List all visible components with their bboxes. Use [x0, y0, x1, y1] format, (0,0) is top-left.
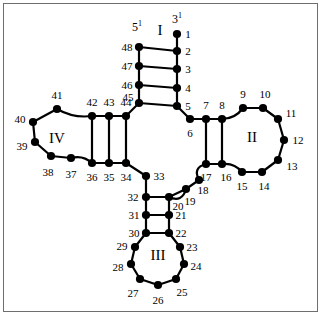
nucleotide-node-9 [239, 104, 247, 112]
base-pair-edge-46-4 [139, 85, 177, 88]
nucleotide-node-10 [259, 104, 267, 112]
nucleotide-label-36: 36 [87, 172, 98, 183]
nucleotide-label-26: 26 [153, 295, 164, 306]
nucleotide-label-10: 10 [260, 89, 271, 100]
nucleotide-node-6 [186, 115, 194, 123]
nucleotide-node-11 [274, 115, 282, 123]
nucleotide-label-39: 39 [17, 141, 28, 152]
nucleotide-node-21 [165, 211, 173, 219]
nucleotide-node-29 [131, 243, 139, 251]
nucleotide-node-39 [31, 138, 39, 146]
nucleotide-label-34: 34 [121, 172, 132, 183]
curved-edges [57, 108, 243, 199]
nucleotide-label-15: 15 [237, 181, 248, 192]
nucleotide-node-31 [142, 211, 150, 219]
nucleotide-label-25: 25 [177, 287, 188, 298]
nucleotide-node-42 [88, 112, 96, 120]
nucleotide-label-11: 11 [286, 108, 297, 119]
nucleotide-node-35 [105, 159, 113, 167]
nucleotide-node-14 [258, 168, 266, 176]
terminal-label-five-prime: 51 [132, 20, 142, 33]
nucleotide-label-1: 1 [185, 29, 191, 40]
arm-label-III: III [151, 248, 166, 263]
nucleotide-node-23 [176, 243, 184, 251]
nucleotide-label-16: 16 [221, 172, 232, 183]
nucleotide-node-46 [135, 81, 143, 89]
rna-structure-figure: 1234567891011121314151617181920212223242… [0, 0, 323, 318]
nucleotide-node-1 [173, 30, 181, 38]
nucleotide-node-38 [47, 152, 55, 160]
nucleotide-node-12 [280, 136, 288, 144]
nucleotide-label-35: 35 [104, 172, 115, 183]
nucleotide-label-30: 30 [129, 228, 140, 239]
nucleotide-node-27 [136, 275, 144, 283]
nucleotide-node-28 [127, 260, 135, 268]
nucleotide-label-17: 17 [201, 172, 212, 183]
structure-canvas [0, 0, 323, 318]
nucleotide-label-12: 12 [293, 135, 304, 146]
nucleotide-node-8 [218, 115, 226, 123]
nucleotide-label-8: 8 [219, 100, 225, 111]
nucleotide-label-5: 5 [185, 101, 191, 112]
nucleotide-node-34 [122, 159, 130, 167]
nucleotide-label-9: 9 [240, 89, 246, 100]
arm-label-IV: IV [49, 131, 65, 146]
nucleotide-label-33: 33 [154, 171, 165, 182]
nucleotide-node-24 [180, 260, 188, 268]
base-pair-edge-48-2 [139, 47, 177, 51]
nucleotide-node-22 [165, 229, 173, 237]
nucleotide-label-40: 40 [15, 114, 26, 125]
nucleotide-label-23: 23 [187, 242, 198, 253]
nucleotide-label-13: 13 [287, 161, 298, 172]
nucleotide-node-13 [274, 156, 282, 164]
nucleotide-node-2 [173, 47, 181, 55]
terminal-label-three-prime: 31 [172, 12, 182, 25]
nucleotide-node-30 [142, 229, 150, 237]
nucleotide-label-29: 29 [117, 241, 128, 252]
nucleotide-label-28: 28 [113, 262, 124, 273]
nucleotide-node-26 [154, 281, 162, 289]
nucleotide-label-32: 32 [128, 192, 139, 203]
terminal-label-prime: 1 [178, 11, 182, 20]
nucleotide-label-14: 14 [259, 181, 270, 192]
nucleotide-label-18: 18 [198, 185, 209, 196]
nucleotide-node-15 [238, 168, 246, 176]
nucleotide-node-16 [218, 160, 226, 168]
nucleotide-label-22: 22 [176, 228, 187, 239]
nucleotide-label-38: 38 [43, 167, 54, 178]
nucleotide-label-31: 31 [129, 210, 140, 221]
nucleotide-label-37: 37 [66, 169, 77, 180]
nucleotide-node-19 [182, 185, 190, 193]
nucleotide-label-21: 21 [176, 210, 187, 221]
nucleotide-node-36 [88, 159, 96, 167]
nucleotide-label-24: 24 [191, 261, 202, 272]
nucleotide-label-2: 2 [185, 46, 191, 57]
nucleotide-node-37 [67, 154, 75, 162]
nucleotide-node-44 [122, 112, 130, 120]
base-pair-edge-47-3 [139, 66, 177, 69]
arm-label-I: I [158, 23, 163, 38]
nucleotide-node-4 [173, 84, 181, 92]
nucleotide-node-45 [135, 99, 143, 107]
nucleotide-label-47: 47 [122, 61, 133, 72]
nucleotide-node-43 [105, 112, 113, 120]
nucleotide-node-32 [142, 193, 150, 201]
nucleotide-node-41 [53, 105, 61, 113]
base-pair-edges [92, 47, 222, 233]
nucleotide-node-48 [135, 43, 143, 51]
nucleotide-label-48: 48 [122, 42, 133, 53]
nucleotide-node-33 [142, 172, 150, 180]
curved-edge-41-42 [57, 109, 92, 116]
base-pair-edge-45-5 [139, 103, 177, 106]
nucleotide-label-19: 19 [185, 196, 196, 207]
nucleotide-node-7 [202, 115, 210, 123]
nucleotide-label-4: 4 [185, 83, 191, 94]
nucleotide-label-27: 27 [128, 288, 139, 299]
nucleotide-node-5 [173, 102, 181, 110]
nucleotide-label-43: 43 [104, 97, 115, 108]
nucleotide-label-6: 6 [187, 128, 193, 139]
nucleotide-label-45: 45 [123, 92, 134, 103]
arm-label-II: II [247, 130, 257, 145]
nucleotide-node-3 [173, 65, 181, 73]
nucleotide-label-3: 3 [185, 64, 191, 75]
